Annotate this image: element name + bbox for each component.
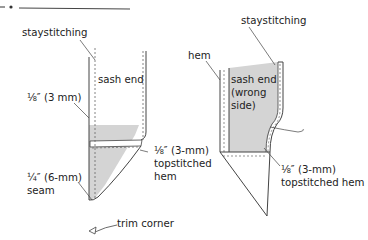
right-hem-label: hem	[188, 50, 211, 62]
left-staystitching-label: staystitching	[22, 27, 88, 39]
left-eighth-inch-label: ⅛″ (3 mm)	[27, 92, 81, 104]
left-folded-corner	[89, 125, 139, 200]
left-sash-end-label: sash end	[98, 74, 144, 86]
right-sash-end-label-1: sash end	[231, 74, 277, 86]
trim-corner-label: trim corner	[117, 218, 174, 230]
right-sash-end-label-2: (wrong	[231, 87, 266, 99]
right-sash-end-label-3: side)	[231, 100, 256, 112]
left-seam-label-1: ¼″ (6-mm)	[27, 172, 82, 184]
left-topstitched-hem-label-3: hem	[154, 171, 177, 183]
left-sash-end	[74, 40, 148, 234]
right-topstitched-hem-label-2: topstitched hem	[281, 177, 365, 189]
left-topstitched-hem-label-2: topstitched	[154, 158, 212, 170]
right-staystitching-label: staystitching	[241, 15, 307, 27]
header-rule	[0, 5, 130, 9]
left-topstitched-hem-label-1: ⅛″ (3-mm)	[154, 145, 209, 157]
right-topstitched-hem-label-1: ⅛″ (3-mm)	[281, 164, 336, 176]
left-seam-label-2: seam	[27, 185, 55, 197]
